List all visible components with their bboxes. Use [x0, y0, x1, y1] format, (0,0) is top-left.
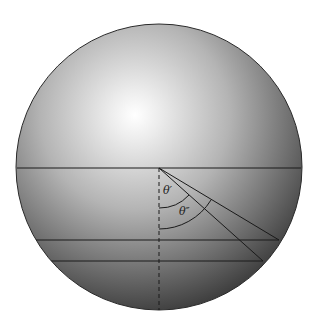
sphere-diagram: θ′ θ″	[0, 0, 317, 335]
label-theta-prime: θ′	[163, 184, 173, 197]
label-theta-double-prime: θ″	[179, 205, 191, 218]
